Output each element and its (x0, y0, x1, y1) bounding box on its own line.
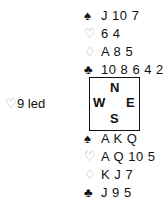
compass-box: N W E S (89, 77, 140, 131)
compass-west: W (93, 96, 105, 110)
south-diamond-cards: K J 7 (101, 166, 133, 184)
compass-south: S (110, 112, 119, 126)
opening-lead: ♡9 led (5, 95, 45, 113)
north-heart-cards: 6 4 (101, 25, 121, 43)
north-spade-cards: J 10 7 (101, 7, 139, 25)
compass-east: E (126, 96, 135, 110)
south-hand: ♠ A K Q ♡ A Q 10 5 ♢ K J 7 ♣ J 9 5 (84, 130, 156, 202)
north-hand: ♠ J 10 7 ♡ 6 4 ♢ A 8 5 ♣ 10 8 6 4 2 (84, 7, 164, 79)
compass-north: N (110, 81, 119, 95)
heart-icon: ♡ (5, 95, 17, 113)
heart-icon: ♡ (84, 25, 101, 43)
south-club-cards: J 9 5 (101, 184, 132, 202)
club-icon: ♣ (84, 184, 101, 202)
north-spades: ♠ J 10 7 (84, 7, 164, 25)
spade-icon: ♠ (84, 130, 101, 148)
south-clubs: ♣ J 9 5 (84, 184, 156, 202)
north-diamonds: ♢ A 8 5 (84, 43, 164, 61)
south-diamonds: ♢ K J 7 (84, 166, 156, 184)
south-heart-cards: A Q 10 5 (101, 148, 156, 166)
diamond-icon: ♢ (84, 166, 101, 184)
opening-lead-text: 9 led (17, 96, 45, 111)
south-hearts: ♡ A Q 10 5 (84, 148, 156, 166)
north-hearts: ♡ 6 4 (84, 25, 164, 43)
south-spades: ♠ A K Q (84, 130, 156, 148)
diamond-icon: ♢ (84, 43, 101, 61)
heart-icon: ♡ (84, 148, 101, 166)
north-diamond-cards: A 8 5 (101, 43, 133, 61)
spade-icon: ♠ (84, 7, 101, 25)
south-spade-cards: A K Q (101, 130, 137, 148)
